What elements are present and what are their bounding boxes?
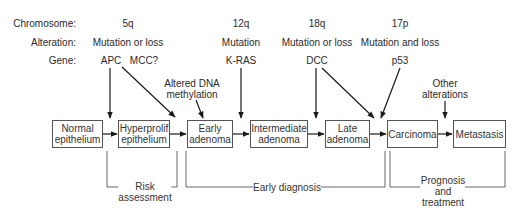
stage-label: Carcinoma [388,129,436,140]
bracket-label: Risk [118,181,171,192]
stage-label: adenoma [251,134,307,145]
stage-early-adenoma: Earlyadenoma [187,120,233,148]
stage-normal-epithelium: Normalepithelium [52,120,103,148]
stage-label: epithelium [120,134,168,145]
stage-carcinoma: Carcinoma [387,120,438,148]
stage-late-adenoma: Lateadenoma [325,120,370,148]
stage-label: adenoma [189,134,231,145]
stage-hyperprolif-epithelium: Hyperprolifepithelium [118,120,170,148]
bracket-label: Prognosis [421,175,465,186]
stage-label: Intermediate [251,123,307,134]
bracket-prognosis-treatment: Prognosis and treatment [421,175,465,208]
bracket-label: assessment [118,192,171,203]
stage-label: epithelium [55,134,101,145]
bracket-label: and [421,186,465,197]
stage-metastasis: Metastasis [453,120,506,148]
stage-label: Metastasis [456,129,504,140]
stage-label: Late [327,123,369,134]
stage-label: Hyperprolif [120,123,168,134]
stage-intermediate-adenoma: Intermediateadenoma [250,120,308,148]
bracket-early-diagnosis: Early diagnosis [253,182,321,193]
stage-label: adenoma [327,134,369,145]
bracket-risk-assessment: Risk assessment [118,181,171,203]
bracket-label: treatment [421,197,465,208]
bracket-label: Early diagnosis [253,182,321,193]
stage-label: Normal [55,123,101,134]
stage-label: Early [189,123,231,134]
